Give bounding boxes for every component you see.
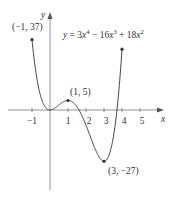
local-min-marker — [102, 160, 105, 163]
x-tick-label: 2 — [87, 116, 92, 126]
function-curve — [32, 40, 122, 162]
x-tick-label: 4 — [122, 116, 127, 126]
x-tick-label: −1 — [27, 116, 37, 126]
annotation-left-endpoint: (−1, 37) — [12, 22, 43, 33]
endpoint-marker — [120, 48, 123, 51]
x-axis-arrow-icon — [157, 108, 164, 113]
chart-title: y = 3x4 − 16x3 + 18x2 — [62, 28, 144, 40]
y-axis-arrow-icon — [48, 12, 53, 19]
annotation-local-max: (1, 5) — [70, 87, 91, 98]
annotation-local-min: (3, −27) — [108, 166, 139, 177]
chart: −1 1 2 3 4 5 x y y = 3x4 − 16x3 + 18x2 (… — [0, 0, 173, 199]
x-tick-label: 3 — [104, 116, 109, 126]
y-axis-label: y — [40, 10, 46, 20]
x-axis-label: x — [160, 114, 166, 124]
x-tick-label: 5 — [140, 116, 145, 126]
endpoint-marker — [30, 38, 33, 41]
x-tick-label: 1 — [66, 116, 71, 126]
local-max-marker — [66, 99, 69, 102]
